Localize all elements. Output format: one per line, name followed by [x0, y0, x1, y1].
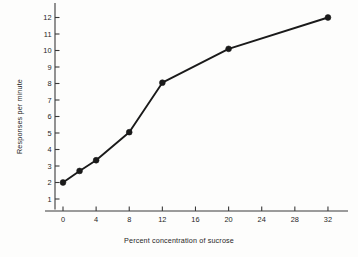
chart-ticks [55, 18, 328, 212]
y-axis-tick-label: 4 [47, 145, 51, 154]
y-axis-tick-label: 9 [47, 63, 51, 72]
x-axis-tick-label: 24 [258, 215, 266, 224]
y-axis-tick-label: 8 [47, 79, 51, 88]
y-axis-tick-label: 6 [47, 112, 51, 121]
data-point-marker [226, 46, 232, 52]
chart-data-markers [60, 15, 331, 186]
x-axis-tick-label: 28 [291, 215, 299, 224]
data-line [63, 18, 328, 183]
line-chart-plot: 123456789101112048121620242832 [0, 0, 358, 257]
x-axis-title: Percent concentration of sucrose [0, 236, 358, 245]
x-axis-tick-label: 16 [191, 215, 199, 224]
y-axis-tick-label: 11 [44, 30, 52, 39]
x-axis-tick-label: 0 [61, 215, 65, 224]
y-axis-tick-label: 7 [47, 96, 51, 105]
y-axis-tick-label: 3 [47, 162, 51, 171]
data-point-marker [60, 180, 66, 186]
data-point-marker [159, 80, 165, 86]
chart-figure: 123456789101112048121620242832 Responses… [0, 0, 358, 257]
chart-tick-labels: 123456789101112048121620242832 [43, 13, 332, 223]
x-axis-tick-label: 32 [324, 215, 332, 224]
x-axis-tick-label: 8 [127, 215, 131, 224]
x-axis-tick-label: 4 [94, 215, 98, 224]
data-point-marker [126, 129, 132, 135]
x-axis-tick-label: 20 [224, 215, 232, 224]
chart-series-line [63, 18, 328, 183]
chart-axes [45, 3, 348, 211]
y-axis-tick-label: 5 [47, 129, 51, 138]
data-point-marker [325, 15, 331, 21]
x-axis-tick-label: 12 [158, 215, 166, 224]
data-point-marker [93, 157, 99, 163]
y-axis-tick-label: 2 [47, 178, 51, 187]
y-axis-tick-label: 10 [43, 46, 51, 55]
y-axis-tick-label: 12 [43, 13, 51, 22]
y-axis-tick-label: 1 [47, 195, 51, 204]
data-point-marker [77, 168, 83, 174]
y-axis-title: Responses per minute [15, 57, 24, 177]
